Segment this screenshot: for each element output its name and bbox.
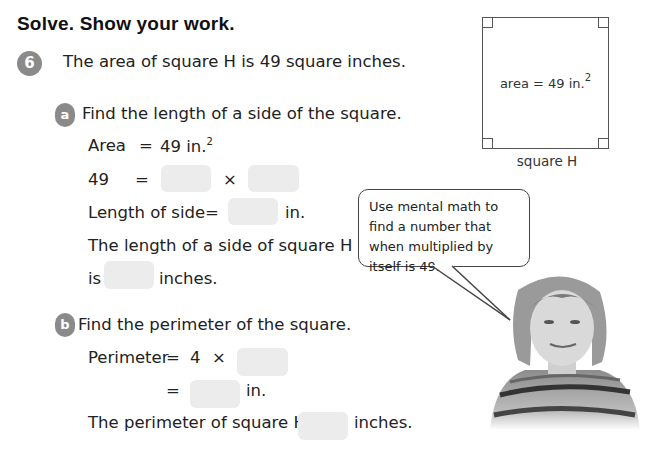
square-h-figure: area = 49 in.2 bbox=[482, 17, 609, 149]
part-b-prompt: Find the perimeter of the square. bbox=[78, 315, 351, 334]
right-angle-mark bbox=[598, 138, 608, 148]
equals-sign: = bbox=[205, 203, 219, 222]
is-label: is bbox=[88, 269, 101, 288]
perimeter-answer-blank[interactable] bbox=[298, 412, 348, 440]
section-heading: Solve. Show your work. bbox=[17, 13, 235, 35]
unit-in: in. bbox=[246, 381, 266, 400]
problem-number-badge: 6 bbox=[17, 51, 42, 76]
area-label: Area bbox=[88, 136, 126, 155]
side-length-blank[interactable] bbox=[228, 198, 278, 225]
right-angle-mark bbox=[598, 18, 608, 28]
perimeter-sentence: The perimeter of square H is bbox=[88, 413, 324, 432]
part-b-badge: b bbox=[55, 313, 75, 337]
side-sentence: The length of a side of square H bbox=[88, 236, 352, 255]
hint-speech-bubble: Use mental math to find a number that wh… bbox=[358, 189, 530, 267]
factor-blank-2[interactable] bbox=[248, 165, 299, 192]
part-a-badge: a bbox=[55, 103, 75, 127]
equals-sign: = bbox=[139, 136, 153, 155]
right-angle-mark bbox=[483, 18, 493, 28]
equals-sign: = bbox=[135, 170, 149, 189]
inches-label: inches. bbox=[354, 413, 413, 432]
length-of-side-label: Length of side bbox=[88, 203, 205, 222]
equals-sign: = bbox=[166, 348, 180, 367]
times-sign: × bbox=[212, 348, 226, 367]
area-value: 49 in.2 bbox=[160, 136, 213, 156]
equation-49-label: 49 bbox=[88, 170, 109, 189]
factor-blank-1[interactable] bbox=[161, 165, 211, 192]
boy-photo bbox=[480, 270, 645, 435]
unit-in: in. bbox=[285, 203, 305, 222]
square-caption: square H bbox=[482, 153, 612, 169]
perimeter-value-blank[interactable] bbox=[190, 380, 240, 408]
equals-sign: = bbox=[166, 381, 180, 400]
four-value: 4 bbox=[190, 348, 201, 367]
side-factor-blank[interactable] bbox=[237, 348, 288, 376]
right-angle-mark bbox=[483, 138, 493, 148]
times-sign: × bbox=[223, 170, 237, 189]
square-area-label: area = 49 in.2 bbox=[483, 72, 608, 91]
part-a-prompt: Find the length of a side of the square. bbox=[82, 104, 402, 123]
problem-statement: The area of square H is 49 square inches… bbox=[63, 52, 406, 71]
side-answer-blank[interactable] bbox=[104, 261, 154, 289]
perimeter-label: Perimeter bbox=[88, 348, 169, 367]
inches-label: inches. bbox=[159, 269, 218, 288]
